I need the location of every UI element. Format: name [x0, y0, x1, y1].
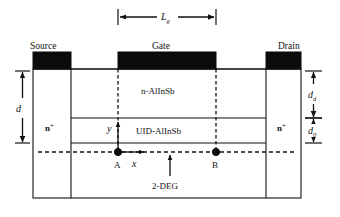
two-deg-callout: 2-DEG: [152, 155, 178, 191]
device-diagram-canvas: Lg Source Gate Drain n-AlInSb UID-AlInSb: [0, 0, 340, 217]
spacer-layer-label: UID-AlInSb: [136, 126, 181, 136]
total-depth-label: d: [16, 103, 22, 114]
gate-contact-pad: [118, 52, 216, 69]
gate-length-label: Lg: [160, 11, 171, 24]
gate-length-dimension: Lg: [118, 9, 216, 25]
drain-label: Drain: [278, 41, 300, 51]
total-depth-dimension: d: [15, 71, 30, 143]
y-axis-label: y: [106, 123, 112, 134]
barrier-layer-label: n-AlInSb: [141, 86, 175, 96]
doped-depth-label: dd: [308, 89, 317, 102]
x-axis-label: x: [131, 158, 137, 169]
spacer-depth-dimension: d0: [305, 118, 322, 143]
two-deg-label: 2-DEG: [152, 181, 178, 191]
point-a-marker: [114, 148, 121, 155]
doped-depth-dimension: dd: [305, 71, 322, 118]
right-ohmic-label: n+: [277, 122, 286, 134]
source-contact-pad: [33, 52, 71, 69]
drain-contact-pad: [266, 52, 301, 69]
point-a-label: A: [114, 160, 121, 170]
point-b-label: B: [212, 160, 218, 170]
point-b-marker: [212, 148, 219, 155]
device-cross-section-figure: Lg Source Gate Drain n-AlInSb UID-AlInSb: [0, 0, 340, 217]
left-ohmic-label: n+: [45, 122, 54, 134]
spacer-depth-label: d0: [308, 125, 317, 138]
source-label: Source: [30, 41, 56, 51]
gate-label: Gate: [152, 41, 170, 51]
